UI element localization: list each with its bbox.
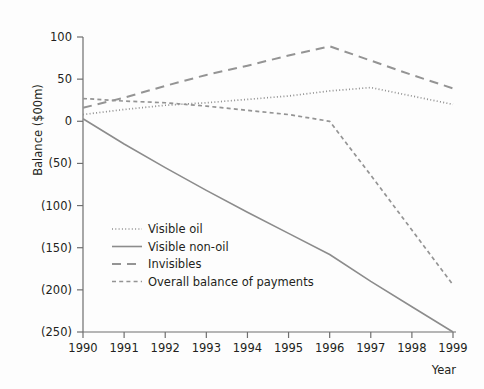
series-line (83, 99, 453, 285)
x-tick-label: 1998 (397, 341, 426, 355)
x-tick-label: 1995 (274, 341, 303, 355)
series-line (83, 119, 453, 332)
y-tick-label: (150) (41, 241, 72, 255)
legend-item-label: Visible oil (148, 222, 203, 236)
y-tick-label: 0 (65, 114, 72, 128)
y-axis-title: Balance ($00m) (31, 84, 45, 176)
x-tick-label: 1991 (109, 341, 138, 355)
series-line (83, 46, 453, 108)
legend-item-label: Overall balance of payments (148, 275, 314, 289)
series-layer (83, 46, 453, 332)
x-axis-ticks: 1990199119921993199419951996199719981999 (68, 332, 467, 355)
y-tick-label: (50) (48, 156, 72, 170)
chart-legend: Visible oilVisible non-oilInvisiblesOver… (112, 222, 314, 289)
y-tick-label: (100) (41, 199, 72, 213)
y-axis-ticks: 100500(50)(100)(150)(200)(250) (41, 30, 83, 339)
x-tick-label: 1994 (233, 341, 262, 355)
y-tick-label: 50 (57, 72, 72, 86)
x-tick-label: 1990 (68, 341, 97, 355)
legend-item-label: Visible non-oil (148, 240, 229, 254)
chart-canvas: Balance ($00m) 100500(50)(100)(150)(200)… (0, 0, 484, 389)
legend-item-label: Invisibles (148, 257, 201, 271)
x-tick-label: 1996 (315, 341, 344, 355)
y-tick-label: (200) (41, 283, 72, 297)
x-tick-label: 1993 (192, 341, 221, 355)
y-tick-label: 100 (50, 30, 72, 44)
x-tick-label: 1999 (438, 341, 467, 355)
x-tick-label: 1997 (356, 341, 385, 355)
x-tick-label: 1992 (151, 341, 180, 355)
y-tick-label: (250) (41, 325, 72, 339)
x-axis-title: Year (431, 363, 457, 377)
line-chart: Balance ($00m) 100500(50)(100)(150)(200)… (0, 0, 484, 389)
series-line (83, 88, 453, 115)
